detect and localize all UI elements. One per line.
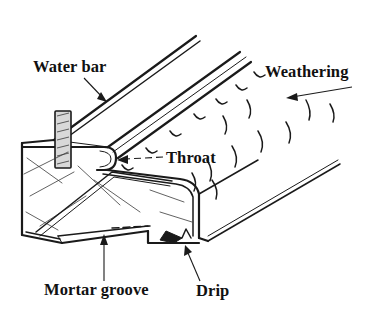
weathering-front-edge-inner — [113, 57, 246, 152]
label-mortar-groove: Mortar groove — [44, 280, 149, 299]
rain-stroke — [232, 146, 236, 167]
leader-arrowhead — [286, 93, 298, 101]
label-water-bar: Water bar — [33, 57, 106, 76]
crack-line — [160, 212, 192, 222]
leader-water-bar — [84, 78, 107, 102]
leader-line — [188, 253, 200, 281]
weathering-top-face — [54, 36, 251, 158]
top-back-arris-line — [54, 36, 196, 140]
label-throat: Throat — [166, 148, 216, 167]
receding-perspective-lines — [199, 160, 340, 241]
weathering-tick — [146, 148, 157, 153]
weathering-tick — [216, 99, 227, 104]
leader-line — [292, 87, 352, 97]
weathering-tick — [254, 72, 265, 77]
bottom-receding-edge-inner — [208, 160, 338, 236]
rain-stroke — [330, 104, 334, 122]
window-sill-section-drawing: Water bar Weathering Throat Mortar groov… — [0, 0, 386, 329]
face-seam-line-inner — [40, 177, 170, 236]
leader-weathering — [286, 87, 352, 101]
throat-groove — [97, 147, 116, 170]
rain-stroke — [258, 131, 262, 152]
weathering-tick — [170, 131, 181, 136]
drip-notch-solid — [160, 231, 182, 243]
rain-stroke — [212, 180, 217, 199]
nose-bottom-return — [199, 238, 208, 241]
weathering-front-edge — [118, 62, 251, 158]
bottom-receding-edge — [208, 164, 340, 241]
label-weathering: Weathering — [265, 62, 349, 81]
rain-stroke — [223, 116, 227, 134]
weathering-tick — [194, 114, 205, 119]
weathering-tick — [122, 165, 133, 170]
leader-drip — [184, 245, 200, 281]
throat-profile-inner — [100, 151, 111, 167]
leader-mortar-groove — [100, 234, 108, 281]
annotation-leaders — [84, 78, 352, 281]
rain-stroke — [306, 100, 310, 120]
sill-nose-profile — [103, 170, 208, 241]
end-face-bottom-edge — [22, 235, 62, 243]
weathering-tick — [236, 85, 247, 90]
crack-line — [150, 190, 184, 202]
leader-line — [126, 157, 163, 159]
rain-stroke — [286, 122, 290, 143]
rain-stroke — [247, 100, 251, 118]
label-drip: Drip — [196, 281, 229, 300]
rain-stroke — [192, 173, 196, 191]
leader-throat — [117, 155, 163, 164]
drip-notch — [148, 229, 199, 243]
end-face-top-edge — [22, 140, 54, 143]
drip-notch-vee — [182, 229, 191, 238]
weathering-crest-line — [108, 52, 240, 147]
water-bar-element — [55, 111, 71, 168]
crack-line — [94, 180, 140, 212]
diagram-canvas: Water bar Weathering Throat Mortar groov… — [0, 0, 386, 329]
